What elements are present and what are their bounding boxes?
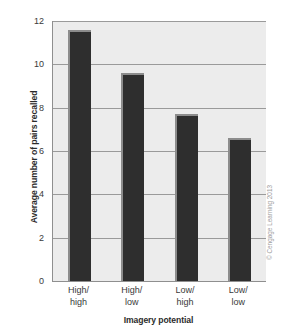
bar-slot [175,21,198,281]
x-axis-tick-label: High/low [105,285,158,308]
x-axis-tick-label-line: low [212,297,265,309]
x-axis-tick-label: Low/high [159,285,212,308]
x-axis-tick-labels: High/highHigh/lowLow/highLow/low [52,285,265,319]
x-axis-tick-label: High/high [52,285,105,308]
y-axis-tick-label: 2 [39,233,44,242]
y-axis-tick-label: 8 [39,103,44,112]
x-axis-tick-label-line: High/ [52,285,105,297]
bar-slot [228,21,251,281]
y-axis-tick-label: 4 [39,190,44,199]
bar [121,73,144,281]
bar [68,30,91,281]
x-axis-title: Imagery potential [52,315,265,325]
plot-area [52,21,266,282]
bar [175,114,198,281]
copyright-credit: © Cengage Learning 2013 [266,168,273,278]
x-axis-tick-label-line: Low/ [159,285,212,297]
x-axis-tick-label-line: high [159,297,212,309]
x-axis-tick-label-line: High/ [105,285,158,297]
bar [228,138,251,281]
x-axis-tick-label-line: high [52,297,105,309]
y-axis-tick-label: 12 [34,17,44,26]
x-axis-tick-label-line: low [105,297,158,309]
y-axis-tick-labels: 024681012 [0,0,48,334]
y-axis-tick-label: 6 [39,147,44,156]
y-axis-tick-label: 0 [39,277,44,286]
bar-slot [121,21,144,281]
y-axis-tick-label: 10 [34,60,44,69]
bar-slot [68,21,91,281]
x-axis-tick-label-line: Low/ [212,285,265,297]
bar-chart-figure: Average number of pairs recalled 0246810… [0,0,298,334]
x-axis-tick-label: Low/low [212,285,265,308]
bar-series [53,21,266,281]
